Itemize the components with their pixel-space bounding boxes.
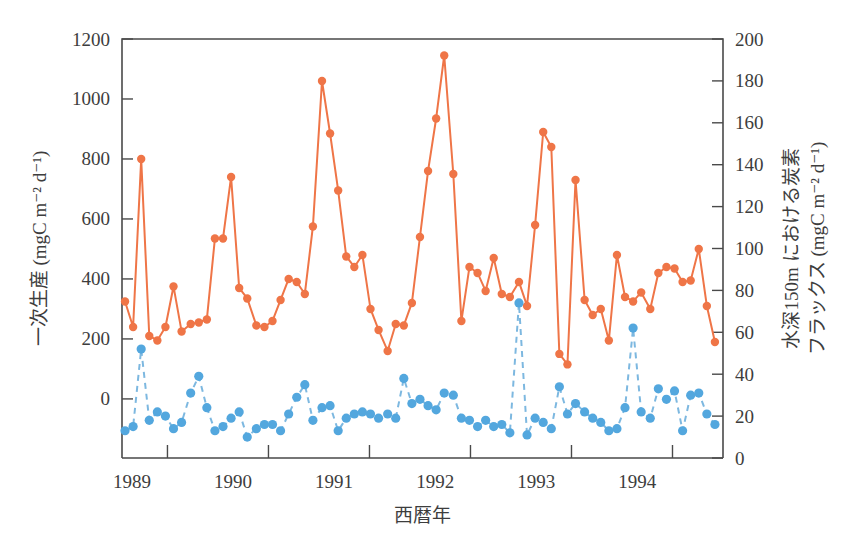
data-point bbox=[555, 382, 564, 391]
data-point bbox=[621, 293, 629, 301]
data-point bbox=[596, 418, 605, 427]
data-point bbox=[589, 311, 597, 319]
data-point bbox=[646, 414, 655, 423]
data-point bbox=[177, 418, 186, 427]
data-point bbox=[383, 409, 392, 418]
data-point bbox=[580, 407, 589, 416]
chart-figure: 020040060080010001200 020406080100120140… bbox=[0, 0, 858, 540]
data-point bbox=[243, 432, 252, 441]
data-point bbox=[711, 338, 719, 346]
data-point bbox=[416, 233, 424, 241]
series-line-primary bbox=[125, 56, 715, 365]
right-tick-label: 100 bbox=[735, 238, 764, 259]
data-point bbox=[218, 422, 227, 431]
data-point bbox=[177, 327, 185, 335]
data-point bbox=[440, 51, 448, 59]
data-point bbox=[695, 245, 703, 253]
data-point bbox=[194, 372, 203, 381]
data-point bbox=[366, 409, 375, 418]
data-point bbox=[137, 344, 146, 353]
data-point bbox=[473, 269, 481, 277]
data-point bbox=[678, 278, 686, 286]
x-tick-label: 1992 bbox=[416, 471, 454, 492]
data-point bbox=[226, 414, 235, 423]
data-point bbox=[235, 284, 243, 292]
data-point bbox=[334, 426, 343, 435]
data-point bbox=[662, 263, 670, 271]
data-point bbox=[252, 424, 261, 433]
data-point bbox=[465, 263, 473, 271]
data-point bbox=[153, 407, 162, 416]
right-tick-label: 160 bbox=[735, 112, 764, 133]
series-layer bbox=[120, 51, 719, 441]
data-point bbox=[423, 401, 432, 410]
data-point bbox=[268, 420, 277, 429]
data-point bbox=[424, 167, 432, 175]
data-point bbox=[358, 407, 367, 416]
data-point bbox=[523, 302, 531, 310]
left-tick-label: 1000 bbox=[72, 88, 110, 109]
data-point bbox=[612, 424, 621, 433]
data-point bbox=[710, 420, 719, 429]
right-tick-label: 40 bbox=[735, 364, 754, 385]
data-point bbox=[334, 186, 342, 194]
data-point bbox=[702, 409, 711, 418]
right-tick-label: 20 bbox=[735, 406, 754, 427]
y2-axis-title-line1: 水深150m における炭素 bbox=[781, 148, 802, 348]
right-tick-label: 60 bbox=[735, 322, 754, 343]
data-point bbox=[670, 264, 678, 272]
data-point bbox=[408, 299, 416, 307]
axis-frame bbox=[122, 39, 723, 458]
data-point bbox=[137, 155, 145, 163]
x-axis-title: 西暦年 bbox=[394, 505, 451, 526]
data-point bbox=[605, 336, 613, 344]
left-tick-label: 200 bbox=[82, 328, 111, 349]
data-point bbox=[153, 336, 161, 344]
data-point bbox=[260, 420, 269, 429]
right-tick-label: 140 bbox=[735, 154, 764, 175]
right-axis-ticks: 020406080100120140160180200 bbox=[712, 29, 764, 469]
data-point bbox=[629, 297, 637, 305]
data-point bbox=[497, 420, 506, 429]
data-point bbox=[604, 426, 613, 435]
data-point bbox=[457, 317, 465, 325]
data-point bbox=[293, 278, 301, 286]
data-point bbox=[276, 296, 284, 304]
data-point bbox=[694, 388, 703, 397]
data-point bbox=[547, 424, 556, 433]
data-point bbox=[145, 332, 153, 340]
data-point bbox=[490, 254, 498, 262]
data-point bbox=[473, 422, 482, 431]
data-point bbox=[268, 317, 276, 325]
data-point bbox=[308, 416, 317, 425]
timeseries-chart: 020040060080010001200 020406080100120140… bbox=[0, 0, 858, 540]
data-point bbox=[522, 430, 531, 439]
data-point bbox=[276, 426, 285, 435]
data-point bbox=[326, 129, 334, 137]
data-point bbox=[186, 320, 194, 328]
data-point bbox=[129, 422, 138, 431]
data-point bbox=[539, 128, 547, 136]
data-point bbox=[654, 269, 662, 277]
left-tick-label: 0 bbox=[101, 388, 111, 409]
series-line-secondary bbox=[125, 303, 715, 437]
data-point bbox=[202, 403, 211, 412]
data-point bbox=[514, 298, 523, 307]
data-point bbox=[374, 326, 382, 334]
data-point bbox=[547, 143, 555, 151]
data-point bbox=[678, 426, 687, 435]
data-point bbox=[342, 252, 350, 260]
data-point bbox=[440, 388, 449, 397]
data-point bbox=[383, 347, 391, 355]
data-point bbox=[210, 426, 219, 435]
chart-axes bbox=[122, 39, 723, 458]
data-point bbox=[489, 422, 498, 431]
right-tick-label: 120 bbox=[735, 196, 764, 217]
data-point bbox=[243, 294, 251, 302]
data-point bbox=[686, 276, 694, 284]
data-point bbox=[235, 407, 244, 416]
data-point bbox=[366, 305, 374, 313]
left-tick-label: 1200 bbox=[72, 29, 110, 50]
left-tick-label: 400 bbox=[82, 268, 111, 289]
data-point bbox=[350, 263, 358, 271]
